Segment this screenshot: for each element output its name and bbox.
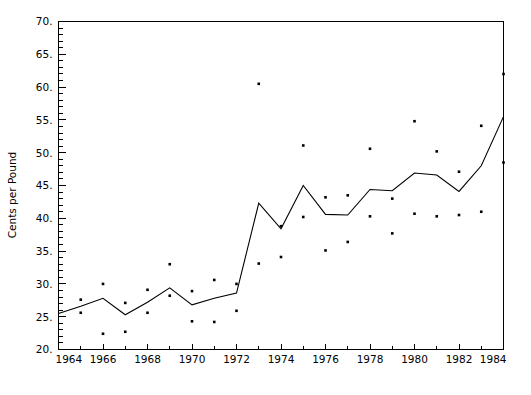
plot-frame: [59, 22, 504, 350]
data-point: [480, 210, 483, 213]
data-point: [257, 262, 260, 265]
data-point: [146, 311, 149, 314]
y-axis-ticks: [59, 22, 66, 350]
data-point: [458, 170, 461, 173]
x-tick-label: 1980: [401, 353, 428, 365]
y-tick-label: 40.: [36, 212, 53, 224]
data-point: [413, 120, 416, 123]
data-point: [191, 290, 194, 293]
data-point: [302, 216, 305, 219]
data-point: [79, 298, 82, 301]
data-point: [235, 310, 238, 313]
y-axis-title-group: Cents per Pound: [6, 152, 18, 239]
data-point: [369, 147, 372, 150]
data-point: [413, 212, 416, 215]
data-point: [391, 232, 394, 235]
y-tick-label: 30.: [36, 278, 53, 290]
y-tick-label: 20.: [36, 343, 53, 355]
data-point: [502, 161, 505, 164]
x-tick-label: 1970: [179, 353, 206, 365]
data-point: [168, 263, 171, 266]
data-point: [302, 144, 305, 147]
data-point: [391, 197, 394, 200]
data-point: [213, 279, 216, 282]
data-point: [480, 125, 483, 128]
y-tick-label: 50.: [36, 147, 53, 159]
data-point: [324, 196, 327, 199]
x-axis-ticks: [59, 344, 504, 350]
data-point: [280, 256, 283, 259]
data-point: [146, 289, 149, 292]
y-axis-title: Cents per Pound: [6, 152, 18, 239]
data-point: [124, 302, 127, 305]
y-tick-label: 45.: [36, 179, 53, 191]
data-point: [435, 150, 438, 153]
series-points-group: [79, 73, 504, 335]
data-point: [213, 321, 216, 324]
x-tick-label: 1968: [134, 353, 161, 365]
chart-container: 1964196619681970197219741976197819801982…: [0, 0, 531, 395]
x-axis-tick-labels: 1964196619681970197219741976197819801982…: [56, 353, 507, 365]
x-tick-label: 1974: [268, 353, 295, 365]
data-point: [280, 225, 283, 228]
data-point: [102, 332, 105, 335]
data-point: [435, 215, 438, 218]
scatter-line-chart: 1964196619681970197219741976197819801982…: [0, 0, 531, 395]
data-point: [235, 283, 238, 286]
plot-border: [59, 22, 504, 350]
x-tick-label: 1964: [56, 353, 83, 365]
data-point: [458, 214, 461, 217]
data-point: [79, 311, 82, 314]
y-tick-label: 70.: [36, 15, 53, 27]
y-tick-label: 60.: [36, 81, 53, 93]
x-tick-label: 1984: [480, 353, 507, 365]
y-tick-label: 65.: [36, 48, 53, 60]
data-point: [257, 83, 260, 86]
data-point: [168, 294, 171, 297]
y-axis-tick-labels: 20.25.30.35.40.45.50.55.60.65.70.: [36, 15, 53, 355]
y-tick-label: 25.: [36, 311, 53, 323]
y-tick-label: 35.: [36, 245, 53, 257]
x-tick-label: 1982: [446, 353, 473, 365]
data-point: [191, 320, 194, 323]
data-point: [369, 215, 372, 218]
data-point: [324, 249, 327, 252]
data-point: [502, 73, 505, 76]
x-tick-label: 1966: [90, 353, 117, 365]
x-tick-label: 1976: [312, 353, 339, 365]
x-tick-label: 1972: [223, 353, 250, 365]
y-tick-label: 55.: [36, 114, 53, 126]
data-point: [124, 330, 127, 333]
data-point: [346, 194, 349, 197]
data-point: [346, 241, 349, 244]
data-point: [102, 283, 105, 286]
x-tick-label: 1978: [357, 353, 384, 365]
